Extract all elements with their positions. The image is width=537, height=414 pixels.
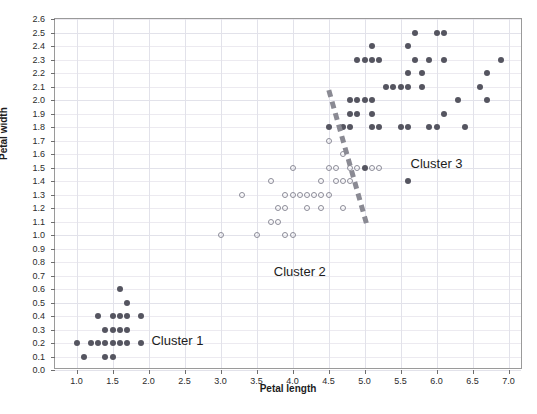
y-axis-tick-label: 1.5 (32, 163, 45, 173)
y-axis-tick (51, 370, 55, 371)
y-axis-tick (51, 330, 55, 331)
x-axis-tick (185, 370, 186, 374)
y-axis-tick-label: 0.9 (32, 244, 45, 254)
y-axis-tick (51, 100, 55, 101)
y-axis-tick (51, 289, 55, 290)
y-axis-tick-label: 1.8 (32, 122, 45, 132)
x-axis-tick (509, 370, 510, 374)
y-axis-tick-label: 0.7 (32, 271, 45, 281)
plot-area: Cluster 1Cluster 2Cluster 3 0.00.10.20.3… (54, 18, 522, 369)
cluster-annotations: Cluster 1Cluster 2Cluster 3 (55, 19, 521, 368)
y-axis-tick (51, 168, 55, 169)
x-axis-title: Petal length (54, 383, 522, 394)
scatter-plot-figure: Petal width Cluster 1Cluster 2Cluster 3 … (0, 0, 537, 414)
y-axis-tick (51, 19, 55, 20)
x-axis-tick (113, 370, 114, 374)
cluster-label: Cluster 2 (274, 264, 326, 279)
y-axis-tick-label: 0.8 (32, 257, 45, 267)
y-axis-tick (51, 46, 55, 47)
x-axis-tick (329, 370, 330, 374)
y-axis-tick-label: 0.2 (32, 338, 45, 348)
y-axis-tick (51, 60, 55, 61)
y-axis-tick (51, 316, 55, 317)
x-axis-tick (77, 370, 78, 374)
y-axis-tick (51, 154, 55, 155)
y-axis-tick (51, 343, 55, 344)
y-axis-tick-label: 1.0 (32, 230, 45, 240)
x-axis-tick (293, 370, 294, 374)
y-axis-tick-label: 2.3 (32, 55, 45, 65)
x-axis-tick (257, 370, 258, 374)
y-axis-tick (51, 262, 55, 263)
y-axis-tick-label: 0.5 (32, 298, 45, 308)
y-axis-tick-label: 2.6 (32, 14, 45, 24)
y-axis-tick (51, 303, 55, 304)
y-axis-tick (51, 357, 55, 358)
y-axis-tick-label: 1.9 (32, 109, 45, 119)
y-axis-tick-label: 2.2 (32, 68, 45, 78)
y-axis-tick-label: 0.4 (32, 311, 45, 321)
y-axis-tick-label: 1.2 (32, 203, 45, 213)
y-axis-tick-label: 2.1 (32, 82, 45, 92)
y-axis-tick-label: 2.4 (32, 41, 45, 51)
y-axis-tick (51, 127, 55, 128)
y-axis-tick-label: 1.3 (32, 190, 45, 200)
y-axis-tick-label: 1.1 (32, 217, 45, 227)
y-axis-tick (51, 276, 55, 277)
y-axis-title: Petal width (0, 107, 9, 160)
y-axis-tick (51, 181, 55, 182)
x-axis-tick (365, 370, 366, 374)
y-axis-tick-label: 1.4 (32, 176, 45, 186)
y-axis-tick (51, 114, 55, 115)
y-axis-tick-label: 2.0 (32, 95, 45, 105)
x-axis-tick (437, 370, 438, 374)
y-axis-tick-label: 1.7 (32, 136, 45, 146)
y-axis-tick (51, 208, 55, 209)
y-axis-tick (51, 195, 55, 196)
y-axis-tick (51, 249, 55, 250)
x-axis-tick (401, 370, 402, 374)
y-axis-tick-label: 0.3 (32, 325, 45, 335)
y-axis-tick (51, 87, 55, 88)
y-axis-tick (51, 222, 55, 223)
y-axis-tick (51, 33, 55, 34)
y-axis-tick-label: 0.6 (32, 284, 45, 294)
x-axis-tick (149, 370, 150, 374)
x-axis-tick (221, 370, 222, 374)
x-axis-tick (473, 370, 474, 374)
y-axis-tick (51, 141, 55, 142)
cluster-label: Cluster 3 (411, 156, 463, 171)
y-axis-tick (51, 73, 55, 74)
y-axis-tick-label: 0.0 (32, 365, 45, 375)
y-axis-tick (51, 235, 55, 236)
cluster-label: Cluster 1 (151, 333, 203, 348)
y-axis-tick-label: 0.1 (32, 352, 45, 362)
gridline-horizontal (55, 370, 521, 371)
y-axis-tick-label: 1.6 (32, 149, 45, 159)
y-axis-tick-label: 2.5 (32, 28, 45, 38)
